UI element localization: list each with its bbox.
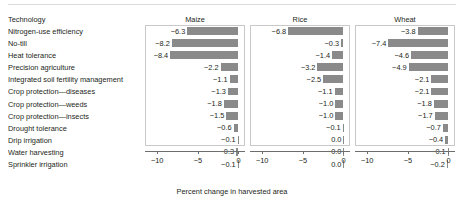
bar-row: −1.1: [250, 85, 350, 97]
bar-row: −3.2: [250, 61, 350, 73]
bar: [332, 51, 343, 59]
bar: [434, 100, 449, 108]
bar-row: −0.1: [145, 134, 245, 146]
bar: [431, 75, 448, 83]
bar-row: −0.7: [355, 122, 455, 134]
bar-value-label: −8.4: [138, 50, 168, 61]
bar: [224, 100, 239, 108]
technology-column-header: Technology: [8, 14, 45, 25]
bar-row: −1.3: [145, 85, 245, 97]
x-axis-tick-label: −5: [291, 155, 315, 166]
chart-figure: Technology MaizeRiceWheat Nitrogen-use e…: [0, 0, 464, 203]
bar-row: −2.2: [145, 61, 245, 73]
panel-header-wheat: Wheat: [355, 14, 455, 25]
row-label: Drought tolerance: [8, 123, 142, 135]
bar-row: 0.0: [250, 134, 350, 146]
bar: [221, 63, 239, 71]
bar-row: −1.7: [355, 110, 455, 122]
bar-row: −8.2: [145, 37, 245, 49]
plot-area: −6.3−8.2−8.4−2.2−1.1−1.3−1.8−1.5−0.6−0.1…: [145, 25, 456, 171]
bar-value-label: −6.8: [256, 26, 286, 37]
technology-label-column: Nitrogen-use efficiencyNo-tillHeat toler…: [8, 26, 142, 171]
bar-value-label: −1.0: [303, 98, 333, 109]
panel-maize: −6.3−8.2−8.4−2.2−1.1−1.3−1.8−1.5−0.6−0.1…: [145, 25, 245, 171]
row-label: Water harvesting: [8, 147, 142, 159]
x-axis-tick: [198, 151, 199, 154]
x-axis-line: [250, 151, 350, 152]
bar-row: −3.8: [355, 25, 455, 37]
x-axis-tick: [157, 151, 158, 154]
bar-row: −1.1: [145, 73, 245, 85]
x-axis-title: Percent change in harvested area: [0, 186, 464, 197]
bar-value-label: −0.4: [413, 134, 443, 145]
x-axis-tick: [262, 151, 263, 154]
panel-header-rice: Rice: [250, 14, 350, 25]
x-axis-tick-label: −10: [355, 155, 379, 166]
bar-row: −0.4: [355, 134, 455, 146]
bar-row: −6.3: [145, 25, 245, 37]
bar: [317, 63, 343, 71]
bar: [409, 63, 449, 71]
bar-value-label: −4.9: [377, 62, 407, 73]
bar: [418, 27, 449, 35]
row-label: Crop protection—weeds: [8, 99, 142, 111]
bar-value-label: −1.1: [198, 74, 228, 85]
bar: [238, 136, 239, 144]
bar: [431, 88, 448, 96]
bar-group: −6.3−8.2−8.4−2.2−1.1−1.3−1.8−1.5−0.6−0.1…: [145, 25, 245, 146]
bar: [411, 51, 448, 59]
x-axis-tick: [303, 151, 304, 154]
bar-value-label: −1.1: [303, 86, 333, 97]
bar-row: −0.3: [250, 37, 350, 49]
bar-row: −0.6: [145, 122, 245, 134]
x-axis-line: [145, 151, 245, 152]
bar-value-label: −2.1: [399, 74, 429, 85]
bar: [388, 39, 448, 47]
bar: [234, 124, 239, 132]
bar-value-label: −0.7: [411, 122, 441, 133]
bar-row: −1.0: [250, 110, 350, 122]
x-axis-tick: [238, 151, 239, 154]
x-axis-tick-label: 0: [226, 155, 250, 166]
bar-row: −0.1: [250, 122, 350, 134]
bar-row: −1.8: [355, 98, 455, 110]
x-axis-tick-label: −10: [250, 155, 274, 166]
bar: [343, 124, 344, 132]
panel-header-maize: Maize: [145, 14, 245, 25]
bar-row: −1.4: [250, 49, 350, 61]
bar-value-label: −0.1: [311, 122, 341, 133]
bar: [445, 136, 448, 144]
x-axis-tick-label: −10: [145, 155, 169, 166]
bar-value-label: −3.2: [285, 62, 315, 73]
bar-row: −4.9: [355, 61, 455, 73]
bar-row: −2.1: [355, 85, 455, 97]
row-label: Heat tolerance: [8, 50, 142, 62]
bar: [335, 88, 344, 96]
bar-value-label: −1.4: [300, 50, 330, 61]
bar: [172, 39, 239, 47]
x-axis-tick-label: −5: [396, 155, 420, 166]
bar-value-label: −1.7: [403, 110, 433, 121]
x-axis-tick-label: −5: [186, 155, 210, 166]
row-label: Integrated soil fertility management: [8, 74, 142, 86]
bar-row: −1.0: [250, 98, 350, 110]
bar: [187, 27, 238, 35]
x-axis-line: [355, 151, 455, 152]
panel-rice: −6.8−0.3−1.4−3.2−2.5−1.1−1.0−1.0−0.10.00…: [250, 25, 350, 171]
bar: [343, 136, 344, 144]
top-divider-rule: [8, 4, 456, 5]
row-label: No-till: [8, 38, 142, 50]
bar: [443, 124, 449, 132]
row-label: Crop protection—insects: [8, 111, 142, 123]
bar-value-label: −1.3: [196, 86, 226, 97]
x-axis-tick: [367, 151, 368, 154]
x-axis-tick: [448, 151, 449, 154]
bar-row: −1.8: [145, 98, 245, 110]
bar-row: −2.5: [250, 73, 350, 85]
bar: [288, 27, 343, 35]
bar-group: −6.8−0.3−1.4−3.2−2.5−1.1−1.0−1.0−0.10.00…: [250, 25, 350, 146]
bar: [335, 100, 343, 108]
bar-value-label: −4.6: [379, 50, 409, 61]
x-axis-tick: [408, 151, 409, 154]
bar: [341, 39, 343, 47]
